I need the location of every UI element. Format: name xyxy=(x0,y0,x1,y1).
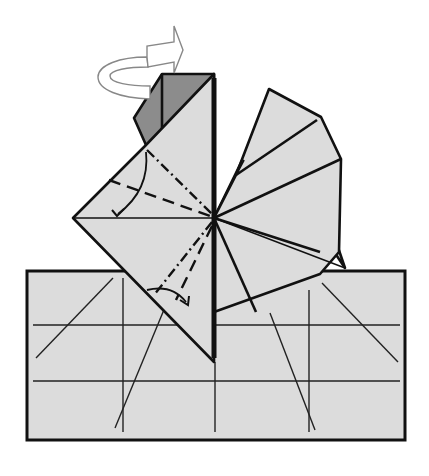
origami-diagram xyxy=(0,0,429,476)
